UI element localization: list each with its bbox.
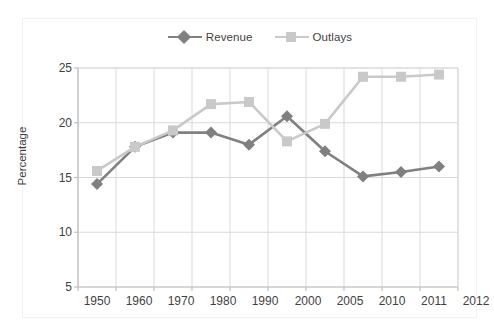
data-point-outlays (130, 142, 140, 152)
data-point-outlays (434, 70, 444, 80)
plot-svg (0, 0, 494, 335)
chart-figure: Revenue Outlays Percentage 25 20 15 10 5… (0, 0, 494, 335)
data-point-outlays (168, 125, 178, 135)
data-point-revenue (433, 161, 445, 173)
axis-frame (74, 68, 458, 291)
data-point-outlays (358, 72, 368, 82)
data-point-outlays (206, 99, 216, 109)
data-point-outlays (320, 119, 330, 129)
data-point-outlays (92, 166, 102, 176)
data-point-revenue (395, 166, 407, 178)
plot-area (0, 0, 494, 335)
data-point-outlays (282, 136, 292, 146)
data-point-revenue (205, 127, 217, 139)
data-point-outlays (244, 97, 254, 107)
data-point-outlays (396, 72, 406, 82)
